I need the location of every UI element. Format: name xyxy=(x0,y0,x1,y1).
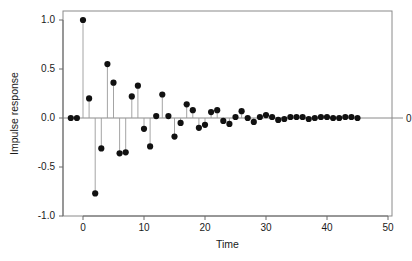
data-point xyxy=(220,118,226,124)
plot-frame xyxy=(63,11,392,216)
data-point xyxy=(336,115,342,121)
data-point xyxy=(135,83,141,89)
data-point xyxy=(287,114,293,120)
data-point xyxy=(245,115,251,121)
impulse-response-chart: 1.00.50.0-0.5-1.0 01020304050 Time Impul… xyxy=(0,0,412,261)
data-point xyxy=(257,114,263,120)
y-tick-label: 1.0 xyxy=(41,14,55,25)
y-tick-label: -0.5 xyxy=(38,161,56,172)
data-point xyxy=(184,101,190,107)
y-axis-ticks: 1.00.50.0-0.5-1.0 xyxy=(38,14,63,221)
x-axis-ticks: 01020304050 xyxy=(80,216,394,233)
data-point xyxy=(275,117,281,123)
data-point xyxy=(196,125,202,131)
x-tick-label: 40 xyxy=(321,222,333,233)
data-point xyxy=(86,95,92,101)
data-point xyxy=(226,121,232,127)
x-tick-label: 50 xyxy=(382,222,394,233)
x-tick-label: 20 xyxy=(199,222,211,233)
data-point xyxy=(324,114,330,120)
data-point xyxy=(68,115,74,121)
data-point xyxy=(354,115,360,121)
data-point xyxy=(293,114,299,120)
x-tick-label: 0 xyxy=(80,222,86,233)
data-point xyxy=(104,61,110,67)
data-point xyxy=(123,149,129,155)
data-point xyxy=(74,115,80,121)
x-tick-label: 10 xyxy=(138,222,150,233)
right-axis-zero-label: 0 xyxy=(406,113,412,124)
data-point xyxy=(80,17,86,23)
data-point xyxy=(330,115,336,121)
y-axis-title: Impulse response xyxy=(8,72,20,155)
data-point xyxy=(98,145,104,151)
data-point xyxy=(110,80,116,86)
data-point xyxy=(263,112,269,118)
data-point xyxy=(281,116,287,122)
data-point xyxy=(153,113,159,119)
data-point xyxy=(306,116,312,122)
y-tick-label: 0.5 xyxy=(41,63,55,74)
data-point xyxy=(171,134,177,140)
data-point xyxy=(129,93,135,99)
data-point xyxy=(251,119,257,125)
data-point xyxy=(342,114,348,120)
data-point xyxy=(165,113,171,119)
data-point xyxy=(348,114,354,120)
x-tick-label: 30 xyxy=(260,222,272,233)
x-axis-title: Time xyxy=(216,238,239,250)
y-tick-label: 0.0 xyxy=(41,112,55,123)
data-point xyxy=(92,190,98,196)
chart-canvas: 1.00.50.0-0.5-1.0 01020304050 Time Impul… xyxy=(0,0,412,261)
data-point xyxy=(141,126,147,132)
y-tick-label: -1.0 xyxy=(38,210,56,221)
data-point xyxy=(208,109,214,115)
data-point xyxy=(202,122,208,128)
data-point xyxy=(190,107,196,113)
data-point xyxy=(239,108,245,114)
data-point xyxy=(159,91,165,97)
data-point xyxy=(318,114,324,120)
data-point xyxy=(269,114,275,120)
data-point xyxy=(300,114,306,120)
data-points xyxy=(68,17,361,197)
data-point xyxy=(312,115,318,121)
data-point xyxy=(232,114,238,120)
data-point xyxy=(214,107,220,113)
data-point xyxy=(117,150,123,156)
data-point xyxy=(178,120,184,126)
plot-frame-rect xyxy=(63,11,392,216)
data-point xyxy=(147,143,153,149)
stem-lines xyxy=(83,20,278,193)
